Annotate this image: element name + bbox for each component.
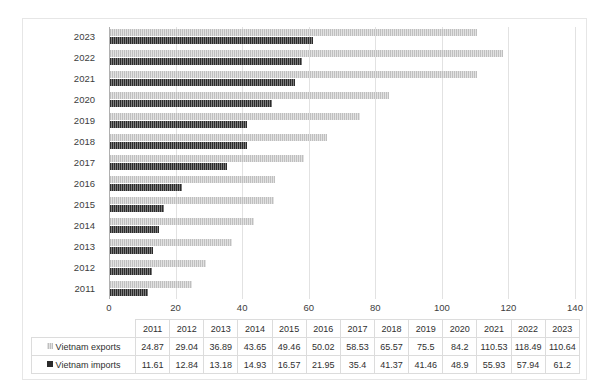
data-table-cell-exports-2014: 43.65 xyxy=(238,338,272,356)
bar-imports-2012[interactable] xyxy=(109,268,152,275)
bar-exports-2013[interactable] xyxy=(109,239,232,246)
gridline-140 xyxy=(575,27,576,299)
gridline-40 xyxy=(242,27,243,299)
x-tick-label-0: 0 xyxy=(106,302,111,313)
bar-imports-2016[interactable] xyxy=(109,184,182,191)
data-table-corner-cell xyxy=(32,320,136,338)
data-table-cell-exports-2018: 65.57 xyxy=(374,338,408,356)
bar-imports-2023[interactable] xyxy=(109,37,313,44)
data-table-head: 2011201220132014201520162017201820192020… xyxy=(32,320,580,338)
data-table-col-header-2023: 2023 xyxy=(545,320,579,338)
data-table-series-label-exports: Vietnam exports xyxy=(32,338,136,356)
bar-exports-2020[interactable] xyxy=(109,92,389,99)
bar-imports-2014[interactable] xyxy=(109,226,159,233)
chart-widget: 2023202220212020201920182017201620152014… xyxy=(22,18,587,380)
x-tick-label-140: 140 xyxy=(567,302,583,313)
data-table-cell-imports-2017: 35.4 xyxy=(340,356,374,374)
bar-exports-2018[interactable] xyxy=(109,134,327,141)
data-table-col-header-2020: 2020 xyxy=(443,320,477,338)
data-table-col-header-2022: 2022 xyxy=(511,320,545,338)
bar-imports-2011[interactable] xyxy=(109,289,148,296)
data-table-body: Vietnam exports24.8729.0436.8943.6549.46… xyxy=(32,338,580,374)
bar-imports-2017[interactable] xyxy=(109,163,227,170)
data-table-cell-exports-2017: 58.53 xyxy=(340,338,374,356)
bar-exports-2021[interactable] xyxy=(109,71,477,78)
data-table-cell-imports-2012: 12.84 xyxy=(170,356,204,374)
data-table-cell-exports-2022: 118.49 xyxy=(511,338,545,356)
bar-imports-2013[interactable] xyxy=(109,247,153,254)
data-table-cell-imports-2018: 41.37 xyxy=(374,356,408,374)
data-table-col-header-2013: 2013 xyxy=(204,320,238,338)
bar-exports-2016[interactable] xyxy=(109,176,275,183)
chart-data-table: 2011201220132014201520162017201820192020… xyxy=(31,319,580,374)
x-tick-label-120: 120 xyxy=(500,302,516,313)
y-tick-label-2021: 2021 xyxy=(23,74,95,84)
bar-imports-2018[interactable] xyxy=(109,142,247,149)
data-table-cell-imports-2011: 11.61 xyxy=(136,356,170,374)
bar-imports-2015[interactable] xyxy=(109,205,164,212)
bar-exports-2014[interactable] xyxy=(109,218,254,225)
y-axis-category-labels: 2023202220212020201920182017201620152014… xyxy=(23,27,103,299)
data-table-cell-exports-2023: 110.64 xyxy=(545,338,579,356)
bar-imports-2022[interactable] xyxy=(109,58,302,65)
data-table-col-header-2015: 2015 xyxy=(272,320,306,338)
table-row: Vietnam exports24.8729.0436.8943.6549.46… xyxy=(32,338,580,356)
data-table-cell-exports-2013: 36.89 xyxy=(204,338,238,356)
bar-imports-2021[interactable] xyxy=(109,79,295,86)
x-tick-label-20: 20 xyxy=(170,302,181,313)
bar-exports-2022[interactable] xyxy=(109,50,503,57)
data-table-cell-exports-2020: 84.2 xyxy=(443,338,477,356)
y-tick-label-2013: 2013 xyxy=(23,242,95,252)
plot-area-wrapper: 2023202220212020201920182017201620152014… xyxy=(23,19,588,311)
x-tick-label-60: 60 xyxy=(303,302,314,313)
y-tick-label-2015: 2015 xyxy=(23,200,95,210)
y-tick-label-2011: 2011 xyxy=(23,284,95,294)
bar-exports-2015[interactable] xyxy=(109,197,274,204)
bar-exports-2012[interactable] xyxy=(109,260,206,267)
data-table-cell-imports-2022: 57.94 xyxy=(511,356,545,374)
data-table-col-header-2011: 2011 xyxy=(136,320,170,338)
bar-exports-2017[interactable] xyxy=(109,155,304,162)
data-table-cell-imports-2019: 41.46 xyxy=(409,356,443,374)
gridline-0 xyxy=(109,27,110,299)
x-axis-tick-labels: 020406080100120140 xyxy=(109,302,575,318)
data-table-cell-imports-2023: 61.2 xyxy=(545,356,579,374)
data-table-cell-imports-2020: 48.9 xyxy=(443,356,477,374)
x-tick-label-40: 40 xyxy=(237,302,248,313)
data-table-series-label-imports: Vietnam imports xyxy=(32,356,136,374)
bar-exports-2023[interactable] xyxy=(109,29,477,36)
data-table-cell-imports-2013: 13.18 xyxy=(204,356,238,374)
bar-imports-2020[interactable] xyxy=(109,100,272,107)
series-label-text: Vietnam imports xyxy=(56,360,121,370)
data-table-cell-imports-2014: 14.93 xyxy=(238,356,272,374)
y-tick-label-2023: 2023 xyxy=(23,32,95,42)
data-table-cell-exports-2011: 24.87 xyxy=(136,338,170,356)
bar-exports-2011[interactable] xyxy=(109,281,192,288)
data-table-cell-exports-2015: 49.46 xyxy=(272,338,306,356)
data-table-col-header-2014: 2014 xyxy=(238,320,272,338)
gridline-60 xyxy=(309,27,310,299)
gridline-120 xyxy=(508,27,509,299)
bar-exports-2019[interactable] xyxy=(109,113,360,120)
exports-swatch xyxy=(47,343,53,349)
data-table-cell-imports-2021: 55.93 xyxy=(477,356,511,374)
data-table-col-header-2012: 2012 xyxy=(170,320,204,338)
y-tick-label-2019: 2019 xyxy=(23,116,95,126)
imports-swatch xyxy=(47,361,53,367)
y-tick-label-2020: 2020 xyxy=(23,95,95,105)
data-table-cell-imports-2016: 21.95 xyxy=(306,356,340,374)
x-tick-label-100: 100 xyxy=(434,302,450,313)
y-tick-label-2014: 2014 xyxy=(23,221,95,231)
y-tick-label-2012: 2012 xyxy=(23,263,95,273)
data-table-col-header-2019: 2019 xyxy=(409,320,443,338)
y-tick-label-2017: 2017 xyxy=(23,158,95,168)
data-table-cell-exports-2019: 75.5 xyxy=(409,338,443,356)
data-table-header-row: 2011201220132014201520162017201820192020… xyxy=(32,320,580,338)
bar-imports-2019[interactable] xyxy=(109,121,247,128)
data-table-cell-exports-2012: 29.04 xyxy=(170,338,204,356)
data-table-col-header-2021: 2021 xyxy=(477,320,511,338)
data-table-col-header-2018: 2018 xyxy=(374,320,408,338)
data-table-cell-exports-2021: 110.53 xyxy=(477,338,511,356)
plot-area xyxy=(109,27,575,299)
y-tick-label-2018: 2018 xyxy=(23,137,95,147)
